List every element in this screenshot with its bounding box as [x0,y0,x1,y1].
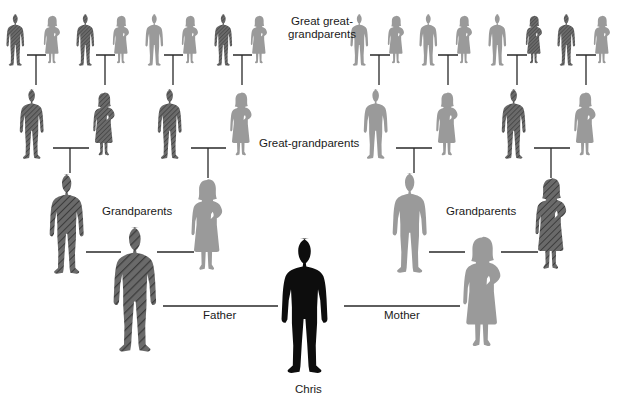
ancestor-figure-female [113,16,129,64]
label-ggg-line2: grandparents [282,28,362,41]
grandmother-maternal [535,178,566,268]
ancestor-figure-female [44,16,60,64]
ancestor-figure-male [419,14,437,66]
ancestor-figure-female [93,93,114,156]
ancestor-figure-male [488,14,506,66]
ancestor-figure-female [456,16,472,64]
label-ggg-line1: Great great- [282,15,362,28]
self-chris [282,238,328,373]
ancestor-figure-male [557,14,575,66]
ancestor-figure-male [502,89,526,159]
ancestor-figure-male [20,89,44,159]
mother-figure [463,237,500,346]
ancestor-figure-male [145,14,163,66]
grandmother-paternal [191,179,222,269]
label-great-great-grandparents: Great great- grandparents [282,15,362,41]
grandfather-maternal [393,173,427,273]
label-great-grandparents: Great-grandparents [259,137,359,149]
ancestor-figure-male [76,14,94,66]
ancestor-figure-male [6,14,24,66]
ancestor-figure-male [214,14,232,66]
ancestor-figure-female [388,16,404,64]
ancestor-figure-female [526,16,542,64]
label-chris: Chris [295,383,322,395]
label-father: Father [203,309,236,321]
label-grandparents-maternal: Grandparents [446,205,516,217]
ancestor-figure-male [364,89,388,159]
ancestor-figure-female [436,93,457,156]
father-figure [114,227,157,352]
ancestor-figure-female [251,16,267,64]
ancestor-figure-female [594,16,610,64]
ancestor-figure-male [158,89,182,159]
family-tree-diagram [0,0,619,398]
label-grandparents-paternal: Grandparents [102,205,172,217]
chris-figure [282,238,328,373]
ancestor-figure-female [230,93,251,156]
ancestor-figure-female [574,93,595,156]
ancestor-figure-female [182,16,198,64]
grandfather-paternal [50,174,84,274]
label-mother: Mother [384,309,420,321]
